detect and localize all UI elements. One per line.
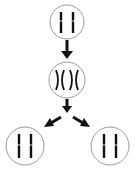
- arrow-down-left-icon: [44, 117, 61, 127]
- arrow-down-icon: [62, 99, 72, 113]
- cell-membrane-icon: [6, 127, 44, 165]
- daughter-cell-right: [91, 127, 129, 165]
- diagram-canvas: [0, 0, 135, 178]
- arrow-down-icon: [61, 40, 73, 59]
- daughter-cell-left: [6, 127, 44, 165]
- cell-division-diagram: Parent cell with two unreplicated chromo…: [0, 0, 135, 178]
- parent-cell: [50, 5, 84, 39]
- arrow-down-right-icon: [73, 117, 90, 127]
- cell-membrane-icon: [50, 5, 84, 39]
- cell-membrane-icon: [49, 62, 85, 98]
- cell-membrane-icon: [91, 127, 129, 165]
- replicated-cell: [49, 62, 85, 98]
